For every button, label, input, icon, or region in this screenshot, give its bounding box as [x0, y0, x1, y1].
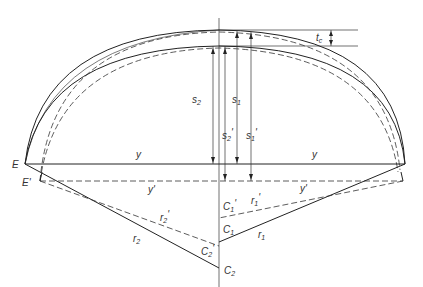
radius-r2 — [25, 164, 219, 268]
label-y-left: y — [135, 149, 142, 160]
sag-s2-arrow-up — [211, 48, 215, 54]
sag-s2-prime-arrow-up — [223, 48, 227, 54]
label-s2: s2 — [192, 94, 201, 106]
right-prime-tick — [401, 172, 403, 181]
label-r1-prime: r1' — [251, 192, 261, 207]
label-C1: C1 — [223, 224, 234, 236]
label-y-prime-left: y' — [147, 184, 156, 195]
outer-arc-dashed — [40, 32, 400, 181]
label-s1: s1 — [232, 94, 241, 106]
tc-arrow-down — [329, 40, 333, 45]
sag-s1-prime-arrow-down — [249, 174, 253, 180]
label-C2-prime: C2' — [201, 243, 215, 258]
outer-arc-solid — [25, 30, 405, 164]
radius-r1-prime — [219, 181, 403, 218]
label-s2-prime: s2' — [222, 127, 234, 142]
label-E: E — [12, 159, 19, 170]
radius-r2-prime — [40, 181, 219, 246]
label-y-right: y — [311, 149, 318, 160]
label-tc: tc — [316, 32, 323, 44]
label-s1-prime: s1' — [246, 127, 258, 142]
label-C2: C2 — [224, 265, 235, 277]
label-r1: r1 — [258, 229, 265, 241]
label-E-prime: E' — [22, 177, 32, 188]
sag-s2-arrow-down — [211, 157, 215, 163]
sag-s1-arrow-down — [235, 157, 239, 163]
label-r2-prime: r2' — [160, 209, 170, 224]
label-y-prime-right: y' — [299, 183, 308, 194]
radius-r1 — [219, 164, 405, 242]
sag-s2-prime-arrow-down — [223, 174, 227, 180]
label-r2: r2 — [133, 233, 140, 245]
tc-arrow-up — [329, 31, 333, 36]
label-C1-prime: C1' — [223, 198, 237, 213]
lens-sag-diagram: E E' y y y' y' s2 s1 s2' s1' tc r2 r2' r… — [0, 0, 423, 287]
